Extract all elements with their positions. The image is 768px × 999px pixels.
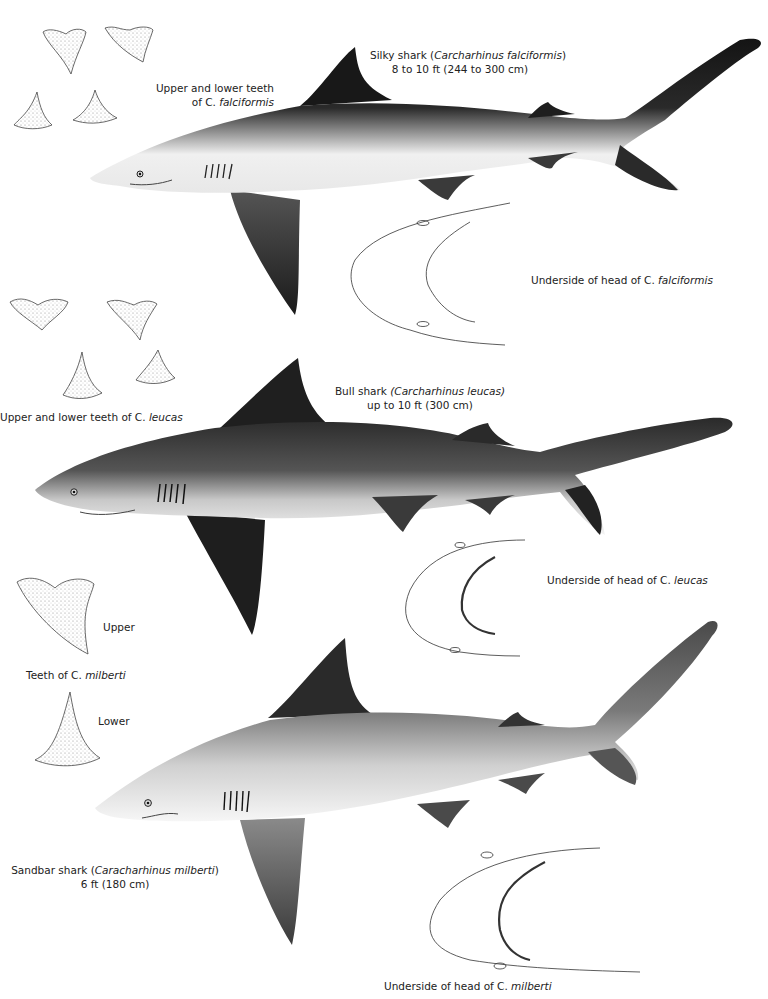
sandbar-teeth-upper-label: Upper — [103, 620, 135, 634]
bull-head-prefix: Underside of head of C. — [547, 574, 674, 586]
sandbar-head-caption: Underside of head of C. milberti — [384, 979, 552, 993]
bull-head-species: leucas — [674, 574, 708, 586]
silky-teeth-caption: Upper and lower teeth of C. falciformis — [136, 81, 274, 109]
bull-common-name: Bull shark — [335, 385, 387, 397]
sandbar-scientific-name: Caracharhinus milberti — [95, 864, 215, 876]
silky-common-name: Silky shark — [370, 49, 427, 61]
bull-teeth-species: leucas — [149, 411, 183, 423]
silky-teeth-illustration — [14, 27, 153, 129]
silky-size: 8 to 10 ft (244 to 300 cm) — [370, 62, 550, 76]
sandbar-shark-caption: Sandbar shark (Caracharhinus milberti) 6… — [10, 863, 220, 891]
bull-head-caption: Underside of head of C. leucas — [547, 573, 708, 587]
sandbar-teeth-caption: Teeth of C. milberti — [26, 668, 126, 682]
silky-scientific-name: Carcharhinus falciformis — [434, 49, 562, 61]
silky-head-prefix: Underside of head of C. — [531, 274, 658, 286]
bull-teeth-prefix: Upper and lower teeth of C. — [0, 411, 149, 423]
silky-head-underside-illustration — [351, 203, 510, 345]
silky-head-caption: Underside of head of C. falciformis — [531, 273, 713, 287]
bull-teeth-illustration — [10, 299, 175, 399]
sandbar-common-name: Sandbar shark — [11, 864, 87, 876]
bull-head-underside-illustration — [406, 540, 525, 656]
bull-scientific-name: Carcharhinus leucas — [394, 385, 501, 397]
sandbar-shark-illustration — [95, 621, 718, 945]
bull-size: up to 10 ft (300 cm) — [330, 398, 510, 412]
sandbar-head-species: milberti — [511, 980, 552, 992]
silky-head-species: falciformis — [658, 274, 713, 286]
silky-teeth-prefix: of C. — [192, 96, 219, 108]
silky-teeth-line1: Upper and lower teeth — [136, 81, 274, 95]
sandbar-size: 6 ft (180 cm) — [10, 877, 220, 891]
silky-shark-caption: Silky shark (Carcharhinus falciformis) 8… — [370, 48, 550, 76]
plate-illustrations — [0, 0, 768, 999]
sandbar-teeth-prefix: Teeth of C. — [26, 669, 85, 681]
sandbar-head-prefix: Underside of head of C. — [384, 980, 511, 992]
silky-teeth-line2: of C. falciformis — [136, 95, 274, 109]
sandbar-teeth-lower-label: Lower — [98, 714, 129, 728]
sandbar-head-underside-illustration — [430, 848, 640, 972]
sandbar-teeth-species: milberti — [85, 669, 126, 681]
bull-shark-caption: Bull shark (Carcharhinus leucas) up to 1… — [330, 384, 510, 412]
silky-teeth-species: falciformis — [219, 96, 274, 108]
bull-teeth-caption: Upper and lower teeth of C. leucas — [0, 410, 183, 424]
